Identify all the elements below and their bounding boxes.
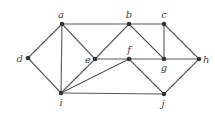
node-c <box>162 22 167 27</box>
node-label-b: b <box>126 9 132 20</box>
node-h <box>197 57 202 62</box>
node-a <box>60 22 65 27</box>
edge-c-h <box>164 24 199 59</box>
edge-b-e <box>95 24 129 59</box>
edge-f-j <box>129 59 164 94</box>
node-label-d: d <box>17 53 23 64</box>
edge-f-i <box>61 59 129 93</box>
node-label-c: c <box>161 9 167 20</box>
edge-d-i <box>28 58 61 93</box>
node-e <box>93 57 98 62</box>
node-label-f: f <box>126 44 133 55</box>
node-b <box>127 22 132 27</box>
node-label-h: h <box>203 54 209 65</box>
edge-a-d <box>28 24 62 58</box>
node-i <box>59 91 64 96</box>
graph-diagram: abcdefghij <box>0 0 215 116</box>
node-label-i: i <box>59 97 62 108</box>
node-f <box>127 57 132 62</box>
edge-j-h <box>164 59 199 94</box>
edge-i-j <box>61 93 164 94</box>
node-label-g: g <box>161 62 167 73</box>
node-label-e: e <box>85 54 91 65</box>
node-d <box>26 56 31 61</box>
edges-layer <box>28 24 199 94</box>
edge-a-i <box>61 24 62 93</box>
node-label-j: j <box>159 98 164 109</box>
node-g <box>162 57 167 62</box>
edge-b-g <box>129 24 164 59</box>
node-label-a: a <box>58 9 64 20</box>
node-j <box>162 92 167 97</box>
